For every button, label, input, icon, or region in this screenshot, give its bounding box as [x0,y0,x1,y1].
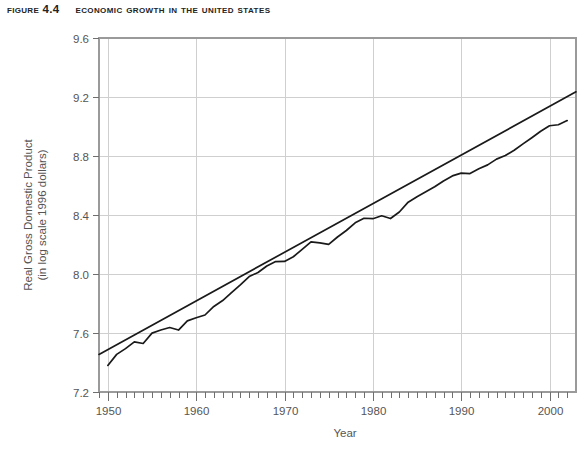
y-tick-label-8.8: 8.8 [73,151,89,163]
x-axis-minor-ticks [100,392,568,398]
x-tick-label-1980: 1980 [361,405,387,417]
x-tick-label-1950: 1950 [96,405,122,417]
x-tick-label-1960: 1960 [184,405,210,417]
x-axis-title: Year [333,427,356,439]
x-axis-tick-labels: 195019601970198019902000 [96,405,564,417]
y-tick-label-7.6: 7.6 [73,328,89,340]
y-axis-ticks [93,39,99,393]
economic-growth-line-chart: 7.27.68.08.48.89.29.6 195019601970198019… [0,0,588,449]
y-tick-label-9.6: 9.6 [73,33,89,45]
y-tick-label-7.2: 7.2 [73,387,89,399]
x-tick-label-1970: 1970 [273,405,299,417]
y-tick-label-8.4: 8.4 [73,210,90,222]
y-tick-label-9.2: 9.2 [73,92,89,104]
x-tick-label-1990: 1990 [449,405,475,417]
x-tick-label-2000: 2000 [538,405,564,417]
y-axis-tick-labels: 7.27.68.08.48.89.29.6 [73,33,90,399]
y-tick-label-8: 8.0 [73,269,89,281]
y-axis-title-line2: (in log scale 1996 dollars) [36,149,48,280]
y-axis-title-line1: Real Gross Domestic Product [22,138,34,290]
chart-container: 7.27.68.08.48.89.29.6 195019601970198019… [0,0,588,449]
